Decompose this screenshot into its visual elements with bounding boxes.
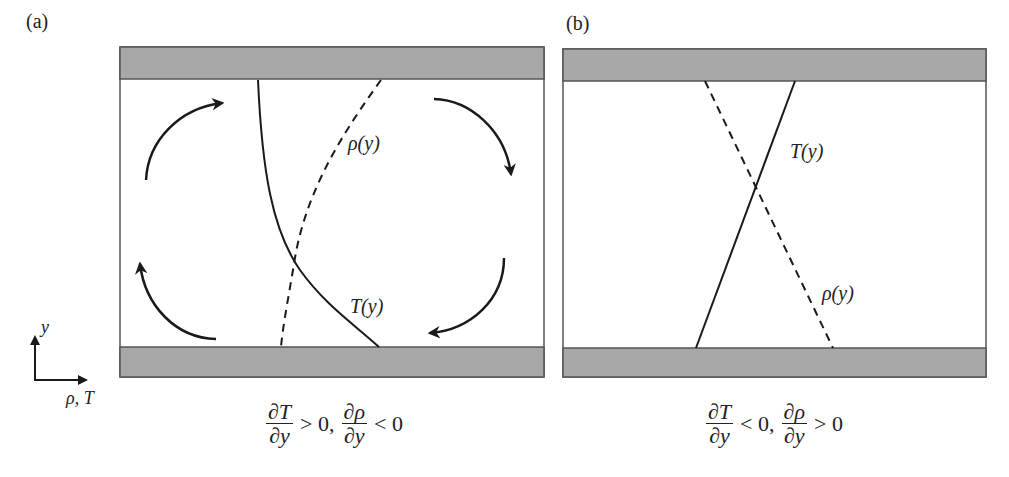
axes-indicator: y ρ, T: [34, 317, 96, 408]
frac-den: ∂y: [782, 424, 807, 447]
panel-a-condition: ∂T ∂y > 0, ∂ρ ∂y < 0: [262, 400, 406, 447]
panel-b-condition: ∂T ∂y < 0, ∂ρ ∂y > 0: [702, 400, 846, 447]
frac-den: ∂y: [342, 424, 367, 447]
panel-a-bottom-plate: [120, 347, 544, 377]
panel-b-T-label: T(y): [790, 140, 824, 163]
panel-a-top-plate: [120, 47, 544, 79]
panel-a: ρ(y) T(y): [120, 47, 544, 377]
panel-a-drho-dy: ∂ρ ∂y: [342, 400, 367, 447]
frac-num: ∂ρ: [782, 400, 807, 424]
y-axis-label: y: [39, 317, 49, 337]
panel-b-frame: [563, 49, 986, 377]
x-axis-label: ρ, T: [65, 388, 96, 408]
panel-b: T(y) ρ(y): [563, 49, 986, 377]
frac-num: ∂ρ: [342, 400, 367, 424]
panel-b-bottom-plate: [563, 348, 986, 377]
frac-den: ∂y: [707, 424, 732, 447]
panel-b-rel2: > 0: [814, 411, 843, 437]
convection-diagram: ρ(y) T(y) T(y) ρ(y) y ρ, T: [0, 0, 1009, 477]
panel-a-rho-label: ρ(y): [347, 132, 380, 155]
panel-a-dT-dy: ∂T ∂y: [266, 400, 293, 447]
panel-a-frame: [120, 47, 544, 377]
panel-b-top-plate: [563, 49, 986, 81]
panel-a-T-label: T(y): [350, 295, 384, 318]
frac-num: ∂T: [706, 400, 733, 424]
panel-a-rel1: > 0,: [300, 411, 334, 437]
frac-den: ∂y: [267, 424, 292, 447]
panel-b-dT-dy: ∂T ∂y: [706, 400, 733, 447]
panel-b-drho-dy: ∂ρ ∂y: [782, 400, 807, 447]
panel-a-rel2: < 0: [374, 411, 403, 437]
panel-b-rel1: < 0,: [740, 411, 774, 437]
frac-num: ∂T: [266, 400, 293, 424]
panel-b-rho-label: ρ(y): [821, 282, 854, 305]
